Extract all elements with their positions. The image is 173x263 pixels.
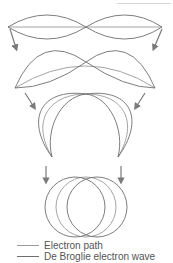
arrow-down-left-icon [25,93,34,107]
legend-label: Electron path [44,240,103,251]
legend: Electron path De Broglie electron wave [17,240,155,262]
legend-swatch-de-broglie-wave [17,256,39,257]
electron-orbit-circle [56,177,116,237]
arrow-down-right-icon [136,93,145,107]
electron-path-arch [43,94,128,157]
arrow-down-left-icon [10,29,16,48]
wave-crest-2 [15,51,155,88]
legend-item-de-broglie-wave: De Broglie electron wave [17,251,155,262]
wave-orbit-diagram [0,0,173,263]
stage-4-closed-orbit [45,177,127,237]
legend-swatch-electron-path [17,245,39,246]
arrows-1-to-2 [10,29,162,48]
wave-crest-1 [15,51,155,88]
arrow-down-right-icon [154,29,162,48]
arrows-3-to-4 [46,166,121,181]
legend-item-electron-path: Electron path [17,240,155,251]
stage-2-bent-wave [15,51,155,88]
legend-label: De Broglie electron wave [44,251,155,262]
stage-3-arched-wave [39,93,132,157]
stage-1-straight-wave [8,15,162,39]
